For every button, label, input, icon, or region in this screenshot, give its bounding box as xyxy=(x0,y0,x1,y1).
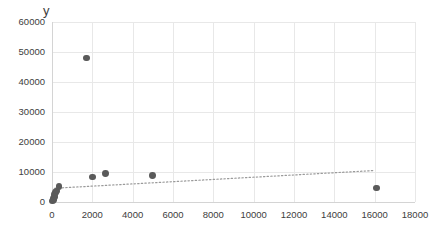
y-tick-label: 40000 xyxy=(19,77,45,87)
y-axis-title: y xyxy=(43,4,50,17)
scatter-chart: 0100002000030000400005000060000 02000400… xyxy=(0,0,441,236)
y-tick-label: 0 xyxy=(40,197,45,207)
y-tick-label: 60000 xyxy=(19,17,45,27)
y-tick-label: 20000 xyxy=(19,137,45,147)
x-tick-label: 18000 xyxy=(385,210,441,220)
trendline xyxy=(0,0,441,236)
plot-area xyxy=(0,0,441,236)
data-point xyxy=(56,183,63,190)
data-point xyxy=(89,174,96,181)
y-tick-label: 30000 xyxy=(19,107,45,117)
data-point xyxy=(102,170,109,177)
data-point xyxy=(83,55,90,62)
y-tick-label: 10000 xyxy=(19,167,45,177)
y-tick-label: 50000 xyxy=(19,47,45,57)
